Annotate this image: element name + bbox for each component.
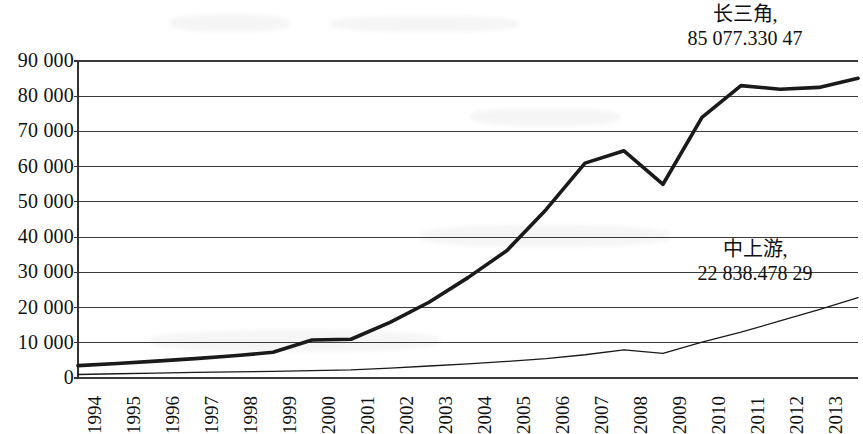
y-axis-tick-label: 60 000 bbox=[2, 156, 74, 176]
x-axis-tick-label: 1999 bbox=[280, 382, 300, 434]
x-axis-tick-label: 2008 bbox=[631, 382, 651, 434]
x-axis-tick-label: 1994 bbox=[85, 382, 105, 434]
y-axis-tick-label: 30 000 bbox=[2, 261, 74, 281]
series-label-name: 长三角, bbox=[640, 2, 850, 26]
y-axis-tick-label: 90 000 bbox=[2, 50, 74, 70]
x-axis-tick-label: 2005 bbox=[514, 382, 534, 434]
y-axis-tick-label: 10 000 bbox=[2, 332, 74, 352]
y-axis: 010 00020 00030 00040 00050 00060 00070 … bbox=[0, 0, 74, 434]
series-lines bbox=[78, 78, 858, 374]
series-label-value: 85 077.330 47 bbox=[640, 26, 850, 50]
x-axis-tick-label: 2009 bbox=[670, 382, 690, 434]
x-axis-tick-label: 2012 bbox=[787, 382, 807, 434]
y-axis-tick-label: 80 000 bbox=[2, 85, 74, 105]
series-line-changsanjiao bbox=[78, 78, 858, 365]
x-axis-tick-label: 2003 bbox=[436, 382, 456, 434]
chart-canvas bbox=[0, 0, 863, 434]
x-axis: 1994199519961997199819992000200120022003… bbox=[0, 382, 863, 434]
series-label-value: 22 838.478 29 bbox=[655, 261, 855, 285]
gridlines bbox=[78, 61, 858, 378]
series-label-zhongshangyou: 中上游, 22 838.478 29 bbox=[655, 237, 855, 285]
y-axis-tick-label: 20 000 bbox=[2, 297, 74, 317]
x-axis-tick-label: 2002 bbox=[397, 382, 417, 434]
x-axis-tick-label: 2013 bbox=[826, 382, 846, 434]
axis-lines bbox=[74, 61, 78, 378]
x-axis-tick-label: 2006 bbox=[553, 382, 573, 434]
x-axis-tick-label: 2007 bbox=[592, 382, 612, 434]
line-chart: 010 00020 00030 00040 00050 00060 00070 … bbox=[0, 0, 863, 434]
x-axis-tick-label: 1997 bbox=[202, 382, 222, 434]
y-axis-tick-label: 50 000 bbox=[2, 191, 74, 211]
x-axis-tick-label: 2010 bbox=[709, 382, 729, 434]
x-axis-tick-label: 1998 bbox=[241, 382, 261, 434]
x-axis-tick-label: 2001 bbox=[358, 382, 378, 434]
x-axis-tick-label: 2011 bbox=[748, 382, 768, 434]
series-label-changsanjiao: 长三角, 85 077.330 47 bbox=[640, 2, 850, 50]
y-axis-tick-label: 40 000 bbox=[2, 226, 74, 246]
x-axis-tick-label: 1995 bbox=[124, 382, 144, 434]
x-axis-tick-label: 1996 bbox=[163, 382, 183, 434]
x-axis-tick-label: 2000 bbox=[319, 382, 339, 434]
x-axis-tick-label: 2004 bbox=[475, 382, 495, 434]
series-line-zhongshangyou bbox=[78, 298, 858, 375]
series-label-name: 中上游, bbox=[655, 237, 855, 261]
y-axis-tick-label: 70 000 bbox=[2, 120, 74, 140]
